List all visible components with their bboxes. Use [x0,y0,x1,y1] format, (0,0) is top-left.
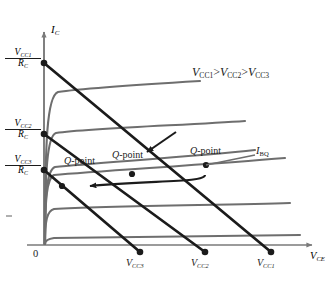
vcc2-denominator: RC [5,129,41,140]
vcc1-denominator: RC [5,58,41,69]
origin-label: 0 [33,248,38,259]
vcc1-numerator: VCC1 [5,48,41,58]
q-point-1-label: Q-point [64,155,95,166]
y-axis-label: IC [51,23,59,35]
vcc3-numerator: VCC3 [5,155,41,165]
dot-vcc3 [137,249,144,256]
q-point-1-dot [59,183,65,189]
q-point-2-dot [129,171,135,177]
x-intercept-vcc1: VCC1 [257,257,275,268]
y-intercept-vcc2-rc: VCC2 RC [5,119,41,140]
inequality-annotation: VCC1>VCC2>VCC3 [192,65,269,80]
dot-vcc1 [268,249,275,256]
dot-vcc3-rc [41,167,48,174]
q-point-2-label: Q-point [112,149,143,160]
ibq-label: IBQ [256,145,269,156]
vcc2-numerator: VCC2 [5,119,41,129]
dot-vcc2-rc [41,131,48,138]
y-intercept-vcc3-rc: VCC3 RC [5,155,41,176]
figure-svg [0,0,336,283]
figure-canvas: IC VCE 0 VCC1 RC VCC2 RC VCC3 RC VCC3 VC… [0,0,336,283]
vcc3-denominator: RC [5,165,41,176]
x-axis-label: VCE [310,250,325,261]
dot-vcc1-rc [41,60,48,67]
axes-group [27,32,312,245]
q-point-3-label: Q-point [190,145,221,156]
x-intercept-vcc2: VCC2 [191,257,209,268]
arrow-down-left [147,132,176,152]
y-intercept-vcc1-rc: VCC1 RC [5,48,41,69]
x-intercept-vcc3: VCC3 [126,257,144,268]
dot-vcc2 [202,249,209,256]
